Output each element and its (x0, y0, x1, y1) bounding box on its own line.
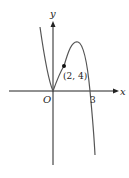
origin-label: O (43, 94, 51, 105)
graph-canvas: y x O 3 (2, 4) (0, 0, 129, 178)
point-marker (62, 64, 66, 68)
x-intercept-label: 3 (90, 95, 96, 105)
point-label: (2, 4) (63, 71, 87, 81)
y-axis-arrow-icon (51, 21, 56, 27)
x-axis-arrow-icon (113, 89, 119, 94)
y-axis-label: y (49, 8, 56, 19)
x-axis-label: x (120, 86, 126, 97)
